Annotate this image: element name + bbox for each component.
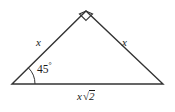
label-left-leg: x	[36, 37, 41, 48]
radical-expression: √2	[82, 90, 96, 103]
angle-arc-icon	[28, 68, 35, 84]
label-angle-45-degrees: 45°	[37, 62, 52, 75]
angle-value: 45	[37, 63, 49, 75]
geometry-figure: x x 45° x√2	[0, 0, 175, 112]
degree-symbol-icon: °	[49, 61, 52, 70]
triangle-outline	[12, 11, 163, 84]
right-angle-marker-icon	[79, 11, 92, 20]
label-right-leg: x	[122, 37, 127, 48]
label-hypotenuse: x√2	[77, 90, 95, 103]
radicand-value: 2	[89, 90, 96, 103]
